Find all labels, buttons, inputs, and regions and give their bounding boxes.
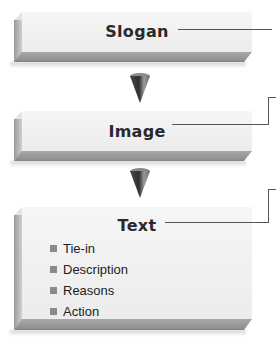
- square-bullet-icon: [50, 308, 57, 315]
- list-item: Reasons: [50, 280, 128, 301]
- slogan-box: Slogan: [14, 12, 252, 74]
- image-connector-riser: [268, 97, 269, 125]
- square-bullet-icon: [50, 245, 57, 252]
- square-bullet-icon: [50, 287, 57, 294]
- slogan-connector-line: [178, 29, 272, 30]
- square-bullet-icon: [50, 266, 57, 273]
- text-connector-riser: [268, 189, 269, 223]
- text-items-list: Tie-in Description Reasons Action: [50, 238, 128, 322]
- list-item: Tie-in: [50, 238, 128, 259]
- list-item: Action: [50, 301, 128, 322]
- text-connector-line: [165, 222, 269, 223]
- text-box: Text Tie-in Description Reasons Action: [14, 207, 252, 337]
- image-box: Image: [14, 111, 252, 173]
- text-connector-tick: [268, 189, 276, 190]
- list-item: Description: [50, 259, 128, 280]
- image-connector-tick: [268, 97, 276, 98]
- text-title: Text: [22, 216, 252, 235]
- image-connector-line: [172, 124, 269, 125]
- diagram-canvas: Slogan Image: [0, 0, 280, 342]
- slogan-title: Slogan: [22, 22, 252, 41]
